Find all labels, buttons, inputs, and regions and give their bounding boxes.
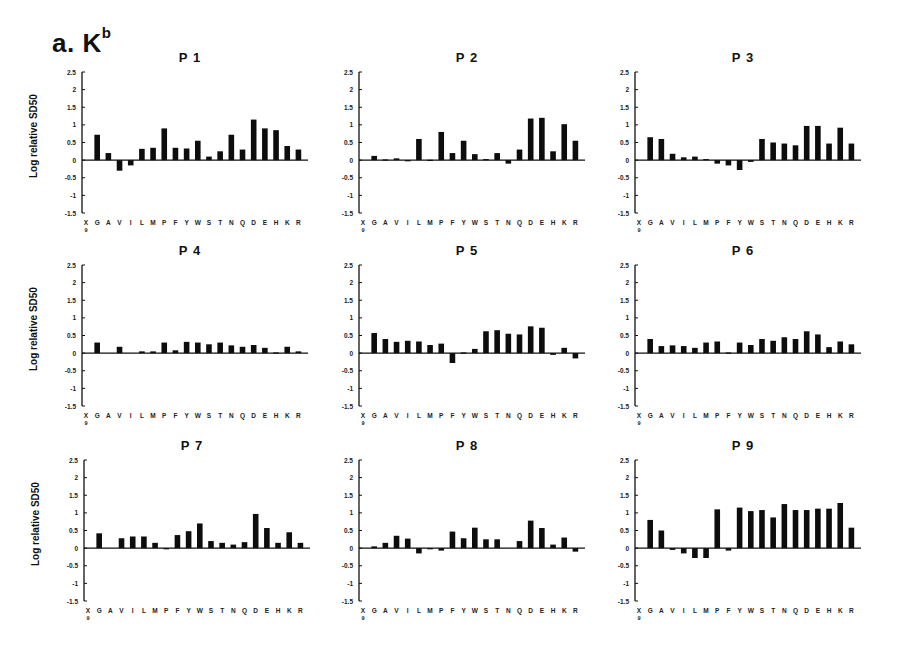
- bar-m: [703, 159, 709, 160]
- bar-l: [139, 149, 145, 160]
- bar-q: [517, 334, 523, 353]
- bar-t: [219, 543, 225, 548]
- bar-d: [251, 345, 257, 353]
- x-tick-label: Q: [517, 607, 522, 615]
- bar-h: [550, 151, 556, 160]
- x-tick-sublabel: 9: [84, 420, 87, 426]
- x-tick-label: W: [472, 412, 479, 419]
- x-tick-label: Y: [186, 607, 191, 614]
- x-tick-label: Y: [461, 219, 466, 226]
- x-tick-label: Y: [184, 412, 189, 419]
- x-tick-label: Y: [737, 219, 742, 226]
- x-tick-label: E: [816, 219, 821, 226]
- x-tick-label: Q: [793, 412, 798, 420]
- bar-y: [737, 508, 743, 549]
- x-tick-label: L: [417, 412, 421, 419]
- bar-y: [461, 538, 467, 548]
- x-tick-sublabel: 9: [637, 420, 640, 426]
- x-tick-label: D: [804, 607, 809, 614]
- x-tick-label: S: [484, 607, 489, 614]
- bar-k: [284, 146, 290, 160]
- bar-t: [770, 341, 776, 353]
- x-tick-label: D: [804, 219, 809, 226]
- x-tick-label: P: [439, 607, 444, 614]
- x-tick-label: X: [84, 219, 89, 226]
- x-tick-label: E: [540, 412, 545, 419]
- bar-q: [242, 542, 248, 548]
- y-tick-label: 0: [349, 350, 353, 357]
- x-tick-label: Y: [461, 412, 466, 419]
- y-tick-label: 1: [72, 314, 76, 321]
- x-tick-label: G: [648, 412, 653, 419]
- y-tick-label: -0.5: [342, 562, 354, 569]
- x-tick-label: S: [484, 219, 489, 226]
- bar-h: [826, 347, 832, 353]
- y-tick-label: 0: [349, 545, 353, 552]
- y-tick-label: -1: [70, 192, 76, 199]
- x-tick-label: P: [162, 412, 167, 419]
- x-tick-label: I: [132, 607, 134, 614]
- x-tick-label: W: [748, 607, 755, 614]
- bar-a: [383, 159, 389, 160]
- bar-chart: 2.521.510.50-0.5-1-1.5X9GAVILMPFYWSTNQDE…: [20, 50, 310, 250]
- bar-i: [130, 536, 136, 548]
- bar-d: [804, 126, 810, 160]
- x-tick-label: A: [106, 219, 111, 226]
- x-tick-label: F: [726, 412, 730, 419]
- x-tick-label: K: [285, 219, 290, 226]
- x-tick-label: S: [209, 607, 214, 614]
- x-tick-label: Q: [240, 412, 245, 420]
- y-tick-label: 2.5: [67, 69, 76, 76]
- bar-r: [849, 144, 855, 161]
- x-tick-label: M: [427, 607, 432, 614]
- x-tick-label: E: [816, 412, 821, 419]
- y-tick-label: -1.5: [67, 598, 79, 605]
- bar-chart: 2.521.510.50-0.5-1-1.5X9GAVILMPFYWSTNQDE…: [573, 50, 863, 250]
- bar-v: [670, 548, 676, 550]
- bar-y: [737, 160, 743, 170]
- y-tick-label: 2: [72, 279, 76, 286]
- bar-q: [517, 150, 523, 161]
- x-tick-label: Y: [184, 219, 189, 226]
- x-tick-label: P: [715, 219, 720, 226]
- bar-t: [770, 143, 776, 161]
- bar-p: [438, 132, 444, 160]
- x-tick-label: I: [130, 219, 132, 226]
- bar-p: [714, 509, 720, 548]
- bar-f: [726, 352, 732, 353]
- bar-w: [748, 160, 754, 162]
- x-tick-label: T: [771, 219, 775, 226]
- y-tick-label: 0.5: [620, 139, 629, 146]
- x-tick-label: V: [117, 219, 122, 226]
- y-tick-label: 0.5: [620, 332, 629, 339]
- x-tick-label: T: [218, 219, 222, 226]
- x-tick-label: M: [427, 219, 432, 226]
- x-tick-label: T: [495, 607, 499, 614]
- x-tick-label: N: [782, 412, 787, 419]
- bar-a: [383, 339, 389, 353]
- bar-n: [782, 337, 788, 353]
- y-tick-label: 2.5: [344, 262, 353, 269]
- x-tick-label: R: [849, 219, 854, 226]
- chart-panel-p3: P 32.521.510.50-0.5-1-1.5X9GAVILMPFYWSTN…: [573, 50, 863, 250]
- bar-k: [284, 347, 290, 353]
- chart-panel-p8: P 82.521.510.50-0.5-1-1.5X9GAVILMPFYWSTN…: [297, 438, 587, 638]
- x-tick-label: H: [274, 219, 279, 226]
- y-tick-label: 0.5: [344, 332, 353, 339]
- x-tick-label: Q: [793, 219, 798, 227]
- x-tick-label: F: [175, 607, 179, 614]
- x-tick-label: V: [670, 219, 675, 226]
- y-tick-label: 2.5: [67, 262, 76, 269]
- bar-m: [427, 160, 433, 161]
- x-tick-label: V: [670, 412, 675, 419]
- bar-e: [262, 128, 268, 160]
- y-tick-label: -1.5: [342, 403, 354, 410]
- x-tick-label: T: [771, 607, 775, 614]
- bar-f: [450, 353, 456, 363]
- x-tick-label: Y: [461, 607, 466, 614]
- x-tick-label: P: [164, 607, 169, 614]
- y-tick-label: 1.5: [620, 297, 629, 304]
- x-tick-label: H: [551, 219, 556, 226]
- bar-t: [494, 153, 500, 160]
- bar-chart: 2.521.510.50-0.5-1-1.5X9GAVILMPFYWSTNQDE…: [573, 438, 863, 638]
